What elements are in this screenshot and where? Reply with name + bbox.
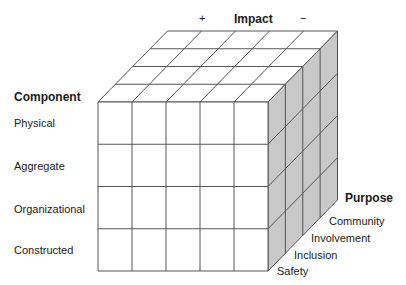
component-label-constructed: Constructed	[14, 245, 73, 256]
purpose-label-community: Community	[329, 216, 385, 227]
component-label-organizational: Organizational	[14, 204, 85, 215]
purpose-label-safety: Safety	[277, 266, 308, 277]
purpose-label-inclusion: Inclusion	[294, 250, 337, 261]
impact-plus-label: +	[199, 13, 205, 24]
purpose-label-involvement: Involvement	[311, 233, 370, 244]
impact-minus-label: −	[300, 13, 306, 24]
impact-axis-title: Impact	[234, 13, 273, 25]
component-label-physical: Physical	[14, 118, 55, 129]
component-axis-title: Component	[14, 91, 81, 103]
component-label-aggregate: Aggregate	[14, 161, 65, 172]
purpose-axis-title: Purpose	[345, 192, 393, 204]
